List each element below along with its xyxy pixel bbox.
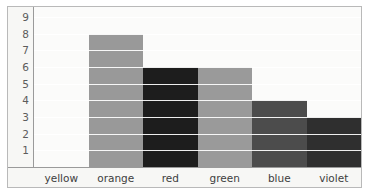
y-tick-label-8: 8 [9, 29, 29, 39]
x-axis-category-labels: yellow orange red green blue violet [34, 168, 361, 187]
x-label-green: green [198, 172, 253, 184]
y-tick-label-5: 5 [9, 79, 29, 89]
bar-chart: 9 8 7 6 5 4 3 2 1 [0, 0, 369, 196]
plot-area [34, 7, 361, 167]
bar-slot-yellow [34, 7, 89, 167]
bar-violet [307, 117, 362, 167]
axis-corner-cell [8, 168, 34, 187]
x-label-blue: blue [252, 172, 307, 184]
bar-orange [89, 34, 144, 167]
y-axis-tick-labels: 9 8 7 6 5 4 3 2 1 [8, 7, 33, 167]
y-tick-label-1: 1 [9, 145, 29, 155]
bar-green [198, 67, 253, 167]
y-tick-label-3: 3 [9, 112, 29, 122]
y-tick-label-9: 9 [9, 12, 29, 22]
y-tick-label-2: 2 [9, 129, 29, 139]
bar-slot-orange [89, 7, 144, 167]
y-tick-label-7: 7 [9, 45, 29, 55]
bar-blue [252, 100, 307, 167]
bar-slot-green [198, 7, 253, 167]
x-label-yellow: yellow [34, 172, 89, 184]
bar-red [143, 67, 198, 167]
bar-slot-blue [252, 7, 307, 167]
x-label-red: red [143, 172, 198, 184]
bar-slot-violet [307, 7, 362, 167]
y-tick-label-6: 6 [9, 62, 29, 72]
bar-yellow [34, 17, 89, 167]
bar-slot-red [143, 7, 198, 167]
y-tick-label-4: 4 [9, 95, 29, 105]
bar-series [34, 7, 361, 167]
x-label-orange: orange [89, 172, 144, 184]
x-label-violet: violet [307, 172, 362, 184]
